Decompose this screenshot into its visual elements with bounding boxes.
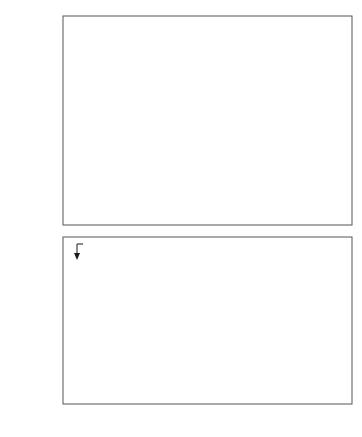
foil-position-annotation [74, 244, 83, 260]
figure [0, 0, 362, 437]
bottom-plot-frame [63, 237, 352, 404]
foil-arrow-icon [77, 244, 83, 254]
top-panel [0, 0, 352, 225]
arrow-down-icon [74, 253, 80, 260]
bottom-panel [63, 237, 352, 404]
top-plot-frame [63, 16, 352, 225]
